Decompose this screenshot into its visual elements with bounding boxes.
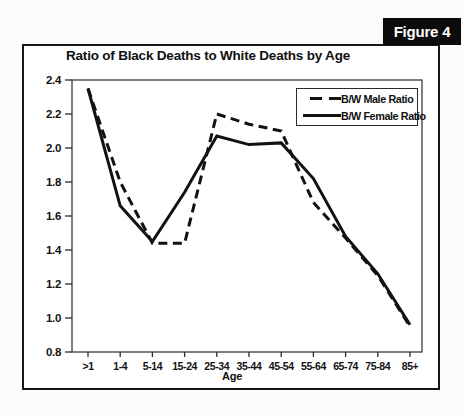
solid-line-sample — [301, 114, 341, 117]
chart-plot: 2.42.22.01.81.61.41.21.00.8>11-45-1415-2… — [0, 0, 463, 415]
legend-item-female: B/W Female Ratio — [301, 108, 413, 123]
y-tick-label: 0.8 — [46, 346, 62, 358]
figure-badge: Figure 4 — [383, 18, 461, 45]
x-tick-label: 65-74 — [333, 360, 358, 372]
y-tick-label: 1.6 — [46, 210, 61, 222]
y-tick-label: 2.4 — [46, 74, 62, 86]
x-tick-label: 1-4 — [113, 360, 128, 372]
y-axis: 2.42.22.01.81.61.41.21.00.8 — [46, 74, 72, 358]
y-tick-label: 1.2 — [46, 278, 61, 290]
y-tick-label: 2.2 — [46, 108, 61, 120]
x-tick-label: 55-64 — [301, 360, 326, 372]
figure-page: Figure 4 Ratio of Black Deaths to White … — [0, 0, 463, 415]
y-tick-label: 1.8 — [46, 176, 62, 188]
x-tick-label: 5-14 — [143, 360, 163, 372]
figure-badge-label: Figure 4 — [394, 23, 451, 40]
legend-label-male: B/W Male Ratio — [341, 93, 413, 105]
y-tick-label: 2.0 — [46, 142, 61, 154]
x-tick-label: 15-24 — [172, 360, 197, 372]
y-tick-label: 1.4 — [46, 244, 62, 256]
y-tick-label: 1.0 — [46, 312, 61, 324]
legend-item-male: B/W Male Ratio — [301, 91, 413, 106]
legend-label-female: B/W Female Ratio — [341, 110, 426, 122]
dashed-line-sample — [301, 97, 341, 100]
x-axis-title: Age — [202, 370, 262, 382]
x-axis: >11-45-1415-2425-3435-4445-5455-6465-747… — [82, 352, 418, 372]
x-tick-label: >1 — [82, 360, 94, 372]
x-tick-label: 75-84 — [365, 360, 390, 372]
x-tick-label: 45-54 — [269, 360, 294, 372]
chart-legend: B/W Male Ratio B/W Female Ratio — [296, 88, 418, 126]
x-tick-label: 85+ — [402, 360, 419, 372]
